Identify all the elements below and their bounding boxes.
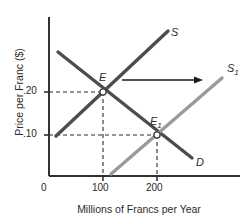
equilibrium-marker-e1: [154, 132, 160, 138]
y-axis-label: Price per Franc ($): [13, 32, 25, 152]
y-tick-label-10: .10: [23, 129, 37, 139]
curve-label-s: S: [171, 27, 178, 38]
x-tick-label-100: 100: [92, 183, 109, 193]
x-axis-label: Millions of Francs per Year: [49, 203, 229, 215]
point-label-e1: E1: [150, 116, 162, 130]
curve-label-d: D: [196, 157, 204, 168]
x-tick-label-0: 0: [41, 183, 47, 193]
point-label-e1-subscript: 1: [157, 121, 161, 130]
economics-supply-demand-chart: .20 .10 0 100 200 Price per Franc ($) Mi…: [0, 0, 251, 222]
x-tick-label-200: 200: [146, 183, 163, 193]
demand-curve-d: [58, 52, 192, 158]
curve-label-s1-subscript: 1: [234, 68, 238, 77]
y-tick-label-20: .20: [23, 86, 37, 96]
shift-arrow-head: [194, 77, 203, 84]
supply-curve-s1: [111, 78, 222, 174]
curve-label-s1: S1: [227, 63, 239, 77]
point-label-e: E: [99, 72, 106, 83]
chart-plot-area: [0, 0, 251, 222]
equilibrium-marker-e: [100, 89, 106, 95]
